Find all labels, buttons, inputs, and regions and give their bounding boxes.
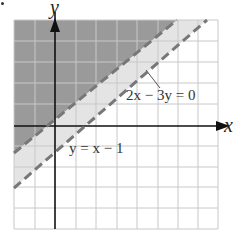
- x-axis-label: x: [224, 114, 233, 137]
- equation-label-line-b: y = x − 1: [69, 140, 123, 157]
- equation-label-line-a: 2x − 3y = 0: [126, 87, 195, 104]
- y-axis-label: y: [50, 0, 59, 19]
- inequality-graph: [0, 0, 238, 233]
